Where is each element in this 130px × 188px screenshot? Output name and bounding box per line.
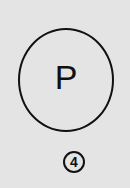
symbol-letter: P — [20, 60, 112, 94]
circled-number-label: 4 — [63, 151, 85, 173]
dry-clean-symbol-icon: P — [18, 28, 114, 132]
